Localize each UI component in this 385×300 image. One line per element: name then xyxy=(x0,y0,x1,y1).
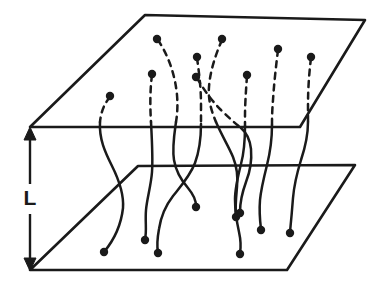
chain-end-dot-bottom xyxy=(236,250,244,258)
chain xyxy=(153,35,200,211)
chain-end-dot-bottom xyxy=(257,226,265,234)
chain-end-dot-top xyxy=(153,35,161,43)
chain xyxy=(154,53,201,257)
chain-segment-solid xyxy=(260,125,272,229)
chain-end-dot-bottom xyxy=(192,203,200,211)
chain-end-dot-top xyxy=(106,92,114,100)
chain-segment-dashed xyxy=(100,97,110,122)
bottom-plane-outline xyxy=(30,165,355,270)
chain xyxy=(141,70,156,244)
chain-end-dot-bottom xyxy=(141,236,149,244)
chain-end-dot-top xyxy=(243,71,251,79)
chain-segment-dashed xyxy=(245,76,247,126)
dimension-label-L: L xyxy=(24,186,37,209)
chain-segment-dashed xyxy=(197,58,201,124)
chain-end-dot-top xyxy=(148,70,156,78)
chain-segment-dashed xyxy=(150,75,152,122)
chain-segment-solid xyxy=(145,122,152,239)
arrow-up-icon xyxy=(24,127,36,140)
chain-segment-solid xyxy=(157,124,201,252)
chain-end-dot-top xyxy=(193,53,201,61)
chain-end-dot-top xyxy=(274,45,282,53)
chain xyxy=(257,45,282,234)
chain-end-dot-top xyxy=(192,73,200,81)
chain-gap-diagram: L xyxy=(0,0,385,300)
chain-segment-solid xyxy=(100,122,123,252)
chain-end-dot-bottom xyxy=(100,248,108,256)
chain xyxy=(100,92,123,256)
diagram-canvas: L xyxy=(0,0,385,300)
chain xyxy=(286,53,315,237)
chain-segment-dashed xyxy=(197,78,241,128)
chain-segment-dashed xyxy=(272,50,278,125)
chain-end-dot-top xyxy=(218,35,226,43)
chain-end-dot-bottom xyxy=(286,229,294,237)
chain-end-dot-bottom xyxy=(154,249,162,257)
chains-layer xyxy=(100,35,315,258)
chain-segment-solid xyxy=(290,122,308,232)
bottom-plane xyxy=(30,165,355,270)
chain-segment-dashed xyxy=(158,40,177,122)
chain-end-dot-top xyxy=(307,53,315,61)
